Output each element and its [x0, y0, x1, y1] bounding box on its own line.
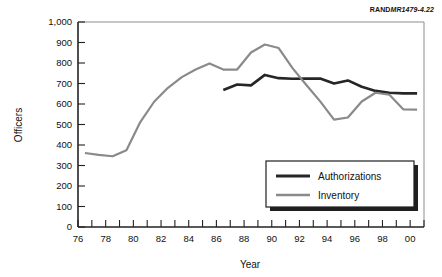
- chart-legend: AuthorizationsInventory: [266, 161, 418, 211]
- x-axis-ticks: 76788082848688909294969800: [73, 220, 424, 244]
- series-line-authorizations: [223, 75, 417, 93]
- y-tick-label: 200: [56, 180, 72, 191]
- x-tick-label: 00: [405, 233, 416, 244]
- y-tick-label: 600: [56, 98, 72, 109]
- line-chart: 01002003004005006007008009001,000 767880…: [0, 0, 442, 277]
- y-axis-title: Officers: [13, 108, 24, 142]
- x-tick-label: 90: [266, 233, 277, 244]
- y-tick-label: 400: [56, 139, 72, 150]
- x-tick-label: 88: [239, 233, 250, 244]
- legend-label-inventory: Inventory: [318, 190, 359, 201]
- x-axis-title: Year: [240, 259, 261, 270]
- data-series-group: [85, 45, 417, 157]
- y-tick-label: 900: [56, 37, 72, 48]
- x-tick-label: 76: [73, 233, 84, 244]
- y-tick-label: 700: [56, 78, 72, 89]
- y-tick-label: 800: [56, 57, 72, 68]
- y-tick-label: 1,000: [48, 16, 72, 27]
- y-tick-label: 0: [67, 221, 72, 232]
- x-tick-label: 84: [183, 233, 194, 244]
- legend-label-authorizations: Authorizations: [318, 171, 381, 182]
- y-axis-ticks: 01002003004005006007008009001,000: [48, 16, 85, 232]
- x-tick-label: 80: [128, 233, 139, 244]
- x-tick-label: 96: [350, 233, 361, 244]
- figure-container: RANDMR1479-4.22 010020030040050060070080…: [0, 0, 442, 277]
- x-tick-label: 92: [294, 233, 305, 244]
- series-line-inventory: [85, 45, 417, 157]
- y-tick-label: 100: [56, 201, 72, 212]
- x-tick-label: 86: [211, 233, 222, 244]
- x-tick-label: 78: [100, 233, 111, 244]
- y-tick-label: 500: [56, 119, 72, 130]
- x-tick-label: 94: [322, 233, 333, 244]
- x-tick-label: 98: [377, 233, 388, 244]
- y-tick-label: 300: [56, 160, 72, 171]
- x-tick-label: 82: [156, 233, 167, 244]
